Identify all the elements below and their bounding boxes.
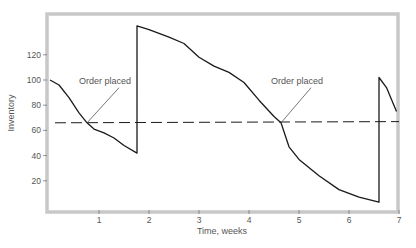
- y-tick-label: 80: [32, 100, 42, 110]
- plot-frame: [47, 14, 398, 212]
- x-tick-label: 3: [197, 215, 202, 225]
- annotation-leader-2: [281, 88, 311, 123]
- y-axis-label: Inventory: [6, 94, 16, 132]
- annotation-order-placed-2: Order placed: [271, 76, 323, 86]
- x-tick-label: 5: [297, 215, 302, 225]
- x-tick-label: 4: [247, 215, 252, 225]
- x-tick-label: 6: [347, 215, 352, 225]
- inventory-chart: 20406080100120 1234567 Time, weeks Inven…: [0, 0, 416, 248]
- annotation-order-placed-1: Order placed: [79, 76, 131, 86]
- x-tick-label: 2: [147, 215, 152, 225]
- annotations: Order placed Order placed: [79, 76, 323, 123]
- x-tick-label: 7: [397, 215, 402, 225]
- y-tick-label: 120: [27, 50, 41, 60]
- y-tick-label: 20: [32, 176, 42, 186]
- chart-canvas: 20406080100120 1234567 Time, weeks Inven…: [0, 0, 416, 248]
- y-axis-ticks: 20406080100120: [27, 50, 47, 186]
- x-axis-label: Time, weeks: [197, 226, 248, 236]
- y-tick-label: 100: [27, 75, 41, 85]
- x-tick-label: 1: [97, 215, 102, 225]
- annotation-leader-1: [87, 88, 119, 123]
- reorder-point-dashed-line: [55, 122, 399, 123]
- inventory-line: [50, 26, 397, 202]
- y-tick-label: 40: [32, 151, 42, 161]
- y-tick-label: 60: [32, 125, 42, 135]
